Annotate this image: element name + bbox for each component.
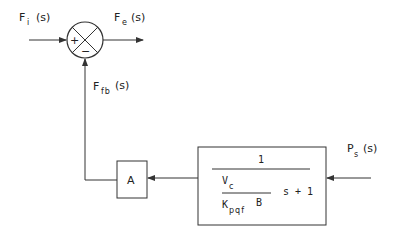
label-ps: P s (s) <box>347 142 377 159</box>
transfer-function-block: 1 V c K pqf B s + 1 <box>198 147 326 225</box>
tf-k-main: K <box>222 199 228 210</box>
label-fi: F i (s) <box>19 11 50 27</box>
label-fe: F e (s) <box>114 11 145 27</box>
label-ps-sub: s <box>354 150 358 159</box>
tf-k-tail: B <box>256 197 262 208</box>
tf-vc-main: V <box>222 175 228 186</box>
summing-junction: + − <box>67 22 103 58</box>
label-fi-sub: i <box>27 18 29 27</box>
label-fe-arg: (s) <box>131 11 145 24</box>
tf-numerator: 1 <box>258 154 264 165</box>
label-ffb-sub: fb <box>101 87 111 96</box>
gain-block: A <box>117 161 147 198</box>
block-diagram: + − A 1 V c K pqf B s + 1 F i (s) F e (s… <box>0 0 403 241</box>
plus-sign: + <box>70 34 79 47</box>
gain-label: A <box>127 174 135 187</box>
label-ps-main: P <box>347 142 354 155</box>
label-ps-arg: (s) <box>363 142 377 155</box>
minus-sign: − <box>81 45 90 58</box>
tf-tail: s + 1 <box>283 186 313 197</box>
label-fe-main: F <box>114 11 120 24</box>
tf-vc-sub: c <box>229 182 233 191</box>
label-fe-sub: e <box>122 18 127 27</box>
label-ffb-arg: (s) <box>115 79 129 92</box>
label-ffb-main: F <box>93 80 99 93</box>
label-fi-main: F <box>19 11 25 24</box>
label-fi-arg: (s) <box>36 11 50 24</box>
label-ffb: F fb (s) <box>93 79 129 96</box>
tf-k-sub: pqf <box>229 206 245 215</box>
